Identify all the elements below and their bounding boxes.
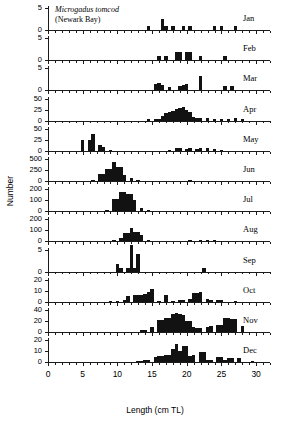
x-tick-minor <box>173 363 174 365</box>
x-tick-minor <box>180 363 181 365</box>
x-tick-minor <box>270 363 271 365</box>
histogram-bar <box>251 361 254 362</box>
month-label-dec: Dec <box>243 345 257 355</box>
x-tick-minor <box>228 363 229 365</box>
y-tick <box>45 362 48 363</box>
x-tick-minor <box>138 363 139 365</box>
x-tick-label: 20 <box>182 369 191 379</box>
x-tick-minor <box>152 363 153 366</box>
y-tick <box>45 351 48 352</box>
x-tick-minor <box>110 363 111 365</box>
x-tick-label: 15 <box>147 369 156 379</box>
x-tick-minor <box>69 363 70 365</box>
x-tick-minor <box>194 363 195 365</box>
histogram-bar <box>147 360 150 362</box>
x-tick-minor <box>208 363 209 365</box>
x-tick-minor <box>256 363 257 366</box>
x-tick-label: 10 <box>113 369 122 379</box>
x-tick-label: 30 <box>251 369 260 379</box>
x-tick-minor <box>117 363 118 366</box>
x-tick-minor <box>242 363 243 365</box>
x-tick-minor <box>187 363 188 366</box>
y-tick-label: 0 <box>0 358 42 366</box>
x-tick-minor <box>124 363 125 365</box>
x-tick-minor <box>221 363 222 366</box>
x-tick-minor <box>249 363 250 365</box>
y-tick-label: 10 <box>0 347 42 355</box>
x-tick-label: 0 <box>46 369 51 379</box>
x-tick-label: 25 <box>217 369 226 379</box>
y-tick-label: 20 <box>0 336 42 344</box>
x-tick-minor <box>235 363 236 365</box>
x-tick-label: 5 <box>80 369 85 379</box>
x-tick-minor <box>104 363 105 365</box>
histogram-bar <box>230 358 233 362</box>
month-panel-dec: 01020Dec <box>0 0 283 429</box>
histogram-bar <box>209 360 212 362</box>
x-tick-minor <box>97 363 98 365</box>
y-tick <box>45 340 48 341</box>
histogram-bar <box>192 355 195 363</box>
x-tick-minor <box>83 363 84 366</box>
x-tick-minor <box>201 363 202 365</box>
x-tick-minor <box>166 363 167 365</box>
x-tick-minor <box>215 363 216 365</box>
x-tick-minor <box>90 363 91 365</box>
x-tick-minor <box>48 363 49 366</box>
length-frequency-figure: Microgadus tomcod (Newark Bay) Number Le… <box>0 0 283 429</box>
panel-y-axis <box>48 338 49 362</box>
x-tick-minor <box>263 363 264 365</box>
x-tick-minor <box>131 363 132 365</box>
x-tick-minor <box>55 363 56 365</box>
x-tick-minor <box>62 363 63 365</box>
histogram-bar <box>237 358 240 362</box>
x-tick-minor <box>159 363 160 365</box>
x-tick-minor <box>145 363 146 365</box>
x-tick-minor <box>76 363 77 365</box>
